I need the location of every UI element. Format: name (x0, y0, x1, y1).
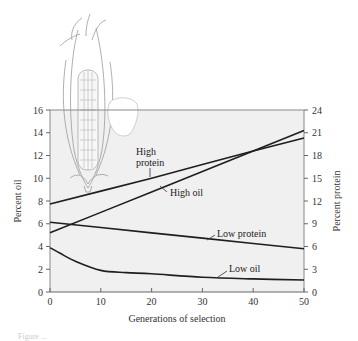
y-left-tick-label: 4 (38, 241, 43, 252)
x-tick-label: 0 (48, 296, 53, 307)
label-high-protein-line2: protein (136, 157, 164, 168)
y-right-tick-label: 12 (312, 196, 322, 207)
y-right-tick-label: 9 (312, 218, 317, 229)
y-left-tick-label: 2 (38, 264, 43, 275)
y-left-tick-label: 10 (33, 173, 43, 184)
x-tick-label: 10 (96, 296, 106, 307)
label-low-oil: Low oil (229, 263, 261, 274)
y-left-tick-label: 6 (38, 218, 43, 229)
y-left-tick-label: 14 (33, 127, 43, 138)
x-tick-label: 40 (248, 296, 258, 307)
y-left-tick-label: 0 (38, 287, 43, 298)
y-left-tick-label: 12 (33, 150, 43, 161)
y-axis-left-title: Percent oil (12, 179, 23, 222)
y-axis-right-title: Percent protein (331, 171, 342, 232)
y-right-tick-label: 18 (312, 150, 322, 161)
y-right-tick-label: 15 (312, 173, 322, 184)
y-right-tick-label: 0 (312, 287, 317, 298)
x-tick-label: 20 (147, 296, 157, 307)
x-tick-label: 30 (197, 296, 207, 307)
y-right-tick-label: 24 (312, 105, 322, 116)
y-left-tick-label: 8 (38, 196, 43, 207)
x-axis-title: Generations of selection (128, 313, 225, 324)
label-high-protein-line1: High (136, 146, 156, 157)
y-right-tick-label: 6 (312, 241, 317, 252)
label-high-oil: High oil (170, 187, 203, 198)
y-right-tick-label: 3 (312, 264, 317, 275)
label-low-protein: Low protein (217, 228, 266, 239)
y-left-tick-label: 16 (33, 105, 43, 116)
chart: 01020304050024681012141603691215182124 H… (0, 0, 358, 341)
figure-caption-partial: Figure ... (18, 332, 47, 341)
y-right-tick-label: 21 (312, 127, 322, 138)
x-tick-label: 50 (299, 296, 309, 307)
